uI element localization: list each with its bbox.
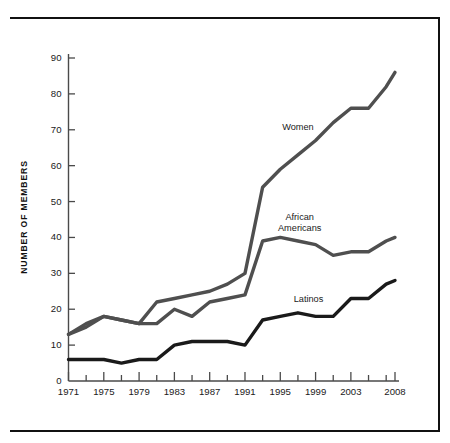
y-tick-label: 40 xyxy=(33,231,62,242)
y-tick-label: 0 xyxy=(33,375,62,386)
y-tick-label: 30 xyxy=(33,267,62,278)
x-tick-label: 2008 xyxy=(374,386,416,397)
line-chart-plot xyxy=(0,0,450,443)
y-tick-label: 80 xyxy=(33,88,62,99)
x-tick-label: 2003 xyxy=(330,386,372,397)
series-line-african-americans xyxy=(69,237,396,334)
series-line-latinos xyxy=(69,281,396,364)
series-label-latinos: Latinos xyxy=(281,294,337,306)
chart-figure: NUMBER OF MEMBERS 0102030405060708090 19… xyxy=(0,0,450,443)
x-axis-ticks xyxy=(69,372,396,381)
y-tick-label: 50 xyxy=(33,196,62,207)
series-label-women: Women xyxy=(270,122,326,134)
series-line-women xyxy=(69,72,396,334)
y-tick-label: 10 xyxy=(33,339,62,350)
series-label-african-line2: Americans xyxy=(265,223,335,235)
series-label-african-americans: African Americans xyxy=(265,212,335,235)
y-tick-label: 20 xyxy=(33,303,62,314)
y-tick-label: 70 xyxy=(33,124,62,135)
y-axis-title: NUMBER OF MEMBERS xyxy=(19,142,29,292)
series-label-african-line1: African xyxy=(265,212,335,224)
y-tick-label: 90 xyxy=(33,52,62,63)
series-lines-group xyxy=(69,72,396,363)
y-tick-label: 60 xyxy=(33,160,62,171)
